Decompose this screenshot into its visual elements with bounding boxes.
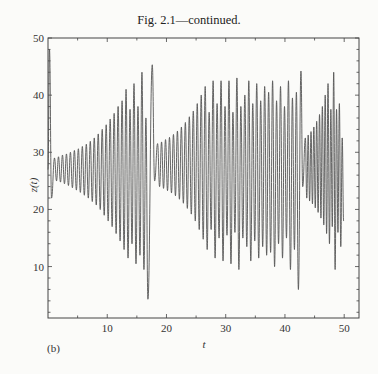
data-point [124,249,125,250]
chart-title: Fig. 2.1—continued. [137,13,240,27]
data-point [146,118,147,119]
data-point [114,113,115,114]
data-point [215,258,216,259]
data-point [169,137,170,138]
data-point [76,190,77,191]
data-point [154,180,155,181]
x-tick-label: 20 [161,322,173,334]
data-point [294,249,295,250]
data-point [315,207,316,208]
axes [48,38,359,318]
data-point [167,190,168,191]
data-point [217,103,218,104]
data-point [130,109,131,110]
data-point [319,114,320,115]
data-point [163,188,164,189]
data-point [90,141,91,142]
data-point [338,232,339,233]
data-point [98,134,99,135]
data-point [325,95,326,96]
data-point [134,83,135,84]
data-point [118,106,119,107]
data-point [332,226,333,227]
data-point [56,180,57,181]
data-point [74,150,75,151]
data-point [244,95,245,96]
data-point [88,198,89,199]
data-point [342,138,343,139]
data-point [51,198,52,199]
data-point [301,71,302,72]
data-point [246,246,247,247]
data-point [209,112,210,113]
data-point [330,109,331,110]
data-point [268,92,269,93]
data-point [82,146,83,147]
y-axis-label: z(t) [27,177,40,193]
data-point [175,195,176,196]
data-point [235,232,236,233]
data-point [181,127,182,128]
data-point [70,152,71,153]
y-tick-label: 20 [33,203,45,215]
data-point [173,134,174,135]
data-point [298,289,299,290]
data-point [199,229,200,230]
data-point [102,129,103,130]
data-point [237,78,238,79]
data-point [312,203,313,204]
data-point [84,195,85,196]
data-point [316,121,317,122]
data-point [270,252,271,253]
data-point [187,208,188,209]
data-point [343,220,344,221]
data-point [276,100,277,101]
data-point [106,124,107,125]
data-point [339,103,340,104]
data-point [68,185,69,186]
data-point [219,238,220,239]
data-point [296,92,297,93]
data-point [116,233,117,234]
data-point [104,215,105,216]
data-point [148,299,149,300]
data-point [138,106,139,107]
data-point [132,243,133,244]
data-point [152,64,153,65]
data-point [144,269,145,270]
data-point [207,249,208,250]
plot-frame [48,38,359,318]
data-point [142,72,143,73]
x-tick-label: 10 [102,322,114,334]
data-point [122,100,123,101]
data-point [272,80,273,81]
data-point [177,131,178,132]
x-axis-label: t [202,338,206,350]
y-tick-label: 50 [33,32,45,44]
data-point [336,109,337,110]
y-tick-label: 30 [33,146,45,158]
data-point [280,86,281,87]
data-point [66,154,67,155]
data-point [136,263,137,264]
data-point [322,106,323,107]
data-point [328,83,329,84]
data-point [108,220,109,221]
data-point [278,243,279,244]
data-point [128,258,129,259]
data-point [260,100,261,101]
data-point [227,235,228,236]
data-point [193,111,194,112]
data-point [54,158,55,159]
data-point [100,209,101,210]
data-point [159,186,160,187]
data-point [58,156,59,157]
data-point [305,138,306,139]
data-point [213,80,214,81]
data-point [229,80,230,81]
data-point [183,203,184,204]
data-point [286,238,287,239]
data-point [60,182,61,183]
data-point [120,240,121,241]
data-point [326,233,327,234]
